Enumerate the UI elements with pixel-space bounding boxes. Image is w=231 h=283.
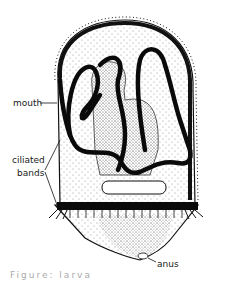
anus-leader-line bbox=[148, 258, 156, 262]
ciliated-bands-label-line1: ciliated bbox=[12, 155, 45, 165]
figure-caption-partial: Figure: larva bbox=[10, 270, 92, 280]
ciliated-bands-leader-2 bbox=[45, 172, 57, 205]
anus-label: anus bbox=[157, 259, 179, 269]
mouth-label: mouth bbox=[13, 98, 42, 108]
ciliated-bands-leader-1 bbox=[45, 140, 60, 170]
ciliated-bands-label-line2: bands bbox=[17, 168, 44, 178]
